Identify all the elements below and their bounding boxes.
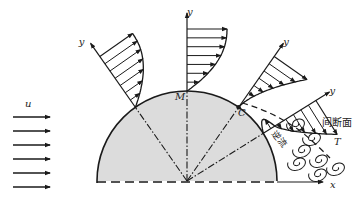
profile-y-axis — [263, 92, 329, 133]
freestream-label: u — [25, 98, 31, 109]
profile-y-axis — [91, 43, 136, 107]
velocity-arrow — [105, 41, 137, 64]
velocity-arrow — [254, 86, 263, 92]
profile-separation: y — [236, 36, 307, 109]
velocity-arrow — [110, 50, 141, 71]
profile-top: y — [186, 6, 227, 91]
x-axis-label: x — [330, 179, 336, 190]
profile-y-label: y — [328, 85, 335, 96]
profile-upstream: y — [78, 34, 144, 108]
flow-diagram: x yyyy u M C 间断面 T 逆流 — [0, 0, 360, 198]
point-m-label: M — [174, 91, 186, 102]
velocity-arrow — [274, 56, 307, 79]
velocity-arrow — [249, 93, 254, 97]
vortex — [325, 161, 346, 179]
point-c-label: C — [238, 107, 246, 118]
velocity-arrow — [115, 59, 143, 78]
vortex — [308, 153, 329, 171]
vortex — [286, 156, 307, 174]
profile-y-label: y — [78, 36, 85, 47]
velocity-arrow — [100, 34, 133, 57]
freestream-arrows — [13, 117, 50, 187]
backflow-label: 逆流 — [269, 128, 289, 149]
profile-y-label: y — [186, 6, 193, 17]
vortex — [285, 117, 306, 135]
wake-label: T — [334, 136, 342, 147]
velocity-arrow — [259, 78, 273, 88]
profile-y-axis — [239, 43, 284, 107]
velocity-arrow — [264, 71, 284, 85]
profile-y-label: y — [282, 36, 289, 47]
velocity-arrow — [269, 64, 295, 82]
discontinuity-label: 间断面 — [322, 116, 352, 128]
